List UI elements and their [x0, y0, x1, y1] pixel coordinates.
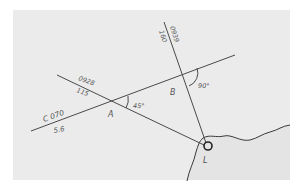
angle-a-label: 45° — [133, 102, 145, 110]
navigation-diagram: C 070 5.6 0928 115 A 45° 0939 160 B 90° … — [0, 0, 300, 187]
point-a-label: A — [107, 110, 113, 119]
point-b-label: B — [170, 88, 176, 97]
diagram-canvas: C 070 5.6 0928 115 A 45° 0939 160 B 90° … — [0, 0, 300, 187]
lighthouse-label: L — [203, 156, 207, 165]
angle-b-label: 90° — [198, 82, 210, 90]
